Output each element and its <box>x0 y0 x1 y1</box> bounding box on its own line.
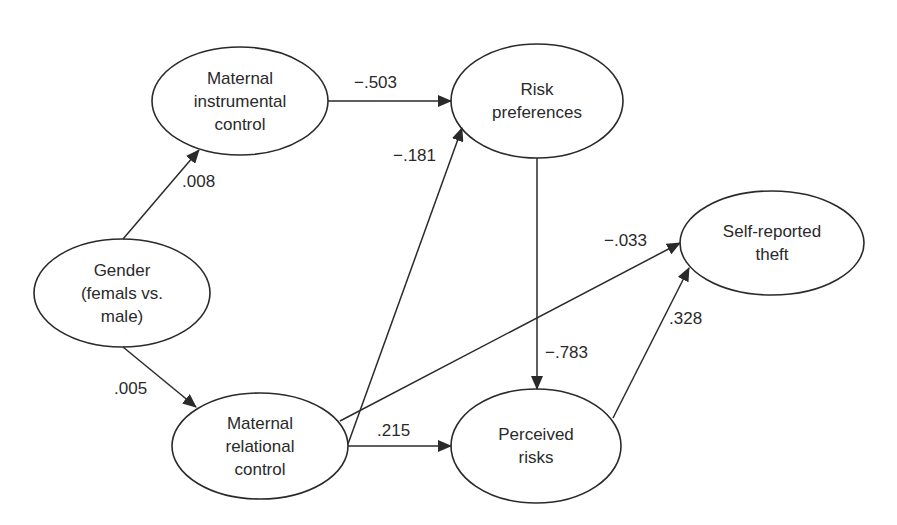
coef-gender-relational: .005 <box>114 379 147 399</box>
edge-perceived-to-theft <box>613 268 689 418</box>
label-line: Risk <box>492 78 582 101</box>
label-line: control <box>194 113 287 136</box>
label-line: risks <box>498 446 574 469</box>
coef-perceived-theft: .328 <box>669 309 702 329</box>
coef-risk-perceived: −.783 <box>545 343 588 363</box>
coef-relational-theft: −.033 <box>604 231 647 251</box>
label-line: relational <box>226 435 295 458</box>
node-label-instrumental: Maternal instrumental control <box>194 67 287 136</box>
label-line: theft <box>723 243 821 266</box>
node-label-theft: Self-reported theft <box>723 220 821 266</box>
label-line: (femals vs. <box>81 282 163 305</box>
label-line: control <box>226 458 295 481</box>
coef-relational-risk: −.181 <box>393 146 436 166</box>
node-label-relational: Maternal relational control <box>226 412 295 481</box>
edge-gender-to-instrumental <box>123 150 199 239</box>
coef-gender-instrumental: .008 <box>182 172 215 192</box>
node-label-gender: Gender (femals vs. male) <box>81 259 163 328</box>
edge-relational-to-risk <box>348 128 462 444</box>
label-line: Perceived <box>498 423 574 446</box>
label-line: Self-reported <box>723 220 821 243</box>
label-line: preferences <box>492 101 582 124</box>
label-line: male) <box>81 305 163 328</box>
coef-relational-perceived: .215 <box>377 421 410 441</box>
label-line: Maternal <box>194 67 287 90</box>
coef-instrumental-risk: −.503 <box>354 73 397 93</box>
node-label-risk-preferences: Risk preferences <box>492 78 582 124</box>
label-line: instrumental <box>194 90 287 113</box>
label-line: Maternal <box>226 412 295 435</box>
label-line: Gender <box>81 259 163 282</box>
edge-relational-to-theft <box>340 243 680 421</box>
node-label-perceived-risks: Perceived risks <box>498 423 574 469</box>
